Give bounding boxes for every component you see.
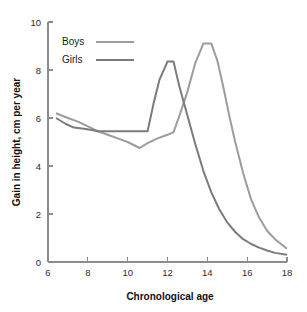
y-tick-label-4: 4 [36,161,41,172]
data-series-group [56,44,287,255]
x-tick-label-18: 18 [282,267,293,278]
x-tick-label-12: 12 [162,267,173,278]
y-axis-title: Gain in height, cm per year [11,78,22,206]
series-line-boys [56,44,287,249]
y-axis-ticks [48,22,53,262]
legend-label-girls: Girls [62,54,83,65]
chart-canvas: 0246810 681012141618 Gain in height, cm … [0,0,307,312]
x-tick-label-10: 10 [122,267,133,278]
y-tick-label-0: 0 [36,257,41,268]
chart-legend: BoysGirls [62,36,134,65]
x-axis-ticks [48,257,287,262]
y-tick-label-8: 8 [36,65,41,76]
y-tick-label-6: 6 [36,113,41,124]
y-tick-label-10: 10 [30,17,41,28]
x-tick-label-16: 16 [242,267,253,278]
x-tick-label-6: 6 [45,267,50,278]
y-tick-label-2: 2 [36,209,41,220]
x-tick-label-8: 8 [85,267,90,278]
x-tick-label-14: 14 [202,267,213,278]
series-line-girls [56,62,287,255]
x-axis-tick-labels: 681012141618 [45,267,292,278]
axis-group [48,22,287,262]
legend-label-boys: Boys [62,36,84,47]
x-axis-title: Chronological age [126,291,214,302]
y-axis-tick-labels: 0246810 [30,17,41,268]
growth-velocity-chart-figure: 0246810 681012141618 Gain in height, cm … [0,0,307,312]
